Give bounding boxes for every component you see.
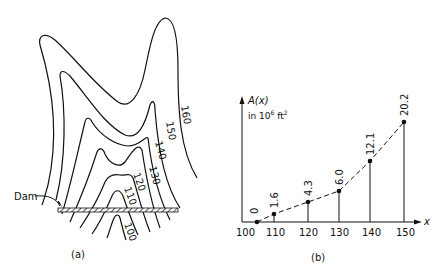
dam-bar: [58, 208, 178, 212]
data-label-1-6: 1.6: [269, 192, 280, 208]
data-label-4-3: 4.3: [303, 180, 314, 196]
data-label-20-2: 20.2: [399, 94, 410, 116]
contour-label-150: 150: [164, 120, 178, 141]
point-20-2: [402, 120, 407, 125]
point-6-0: [337, 189, 342, 194]
x-tick-100: 100: [236, 227, 255, 238]
contour-label-100: 100: [122, 221, 139, 243]
data-label-6-0: 6.0: [334, 169, 345, 185]
x-tick-120: 120: [299, 227, 318, 238]
data-label-0: 0: [249, 208, 260, 214]
contour-label-140: 140: [153, 140, 169, 161]
x-axis-label: x: [423, 216, 430, 227]
caption-b: (b): [311, 252, 325, 263]
x-tick-140: 140: [362, 227, 381, 238]
point-1-6: [272, 212, 277, 217]
point-12-1: [368, 159, 373, 164]
y-axis-units: in 106 ft2: [248, 109, 288, 121]
point-0: [255, 220, 260, 225]
x-tick-130: 130: [330, 227, 349, 238]
dam-label: Dam: [14, 191, 38, 202]
y-axis-arrow-icon: [240, 96, 245, 104]
figure-canvas: 160 150 140 130 120 110 100 Dam (a) A(x)…: [0, 0, 448, 274]
point-4-3: [306, 200, 311, 205]
contour-label-160: 160: [179, 104, 193, 125]
contour-160-left-tail: [42, 185, 48, 205]
caption-a: (a): [71, 249, 85, 260]
x-tick-150: 150: [396, 227, 415, 238]
y-axis-label: A(x): [247, 95, 269, 106]
data-label-12-1: 12.1: [365, 133, 376, 155]
contour-label-130: 130: [147, 165, 163, 186]
x-axis-arrow-icon: [414, 220, 422, 225]
area-chart: A(x) in 106 ft2 x 100 110 120 130 140 15…: [236, 94, 430, 263]
x-tick-110: 110: [266, 227, 285, 238]
